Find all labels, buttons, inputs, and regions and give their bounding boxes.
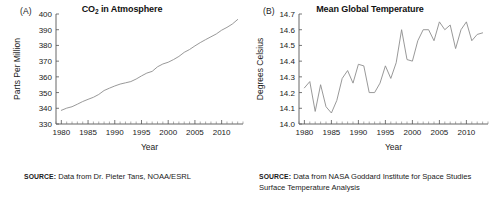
y-tick-label: 14.3 xyxy=(279,73,295,82)
x-axis-title: Year xyxy=(141,142,158,152)
x-tick-label: 1990 xyxy=(350,128,368,137)
x-tick-label: 1980 xyxy=(296,128,314,137)
y-tick-label: 14.0 xyxy=(279,120,295,129)
chart-co2: 3303403503603703803904001980198519901995… xyxy=(0,0,251,160)
x-tick-label: 2010 xyxy=(213,128,231,137)
x-tick-label: 1995 xyxy=(377,128,395,137)
x-tick-label: 2005 xyxy=(186,128,204,137)
panel-b-source-text: Data from NASA Goddard Institute for Spa… xyxy=(259,172,471,192)
panel-a-source: SOURCE: Data from Dr. Pieter Tans, NOAA/… xyxy=(24,172,250,183)
x-tick-label: 1995 xyxy=(133,128,151,137)
x-tick-label: 2000 xyxy=(159,128,177,137)
y-tick-label: 360 xyxy=(39,73,53,82)
y-tick-label: 14.1 xyxy=(279,104,295,113)
x-tick-label: 2000 xyxy=(404,128,422,137)
x-tick-label: 2005 xyxy=(431,128,449,137)
panel-a-source-prefix: SOURCE: xyxy=(24,173,56,180)
y-tick-label: 14.6 xyxy=(279,26,295,35)
y-tick-label: 14.2 xyxy=(279,89,295,98)
y-tick-label: 14.5 xyxy=(279,41,295,50)
y-tick-label: 14.7 xyxy=(279,10,295,19)
panel-co2: (A) CO2 in Atmosphere 330340350360370380… xyxy=(0,0,251,206)
panel-b-source: SOURCE: Data from NASA Goddard Institute… xyxy=(259,172,499,193)
y-axis-title: Degrees Celsius xyxy=(255,38,265,100)
y-tick-label: 340 xyxy=(39,104,53,113)
y-tick-label: 390 xyxy=(39,26,53,35)
panel-b-source-prefix: SOURCE: xyxy=(259,173,291,180)
data-series-line xyxy=(61,20,237,111)
x-tick-label: 1980 xyxy=(52,128,70,137)
chart-temperature: 14.014.114.214.314.414.514.614.719801985… xyxy=(251,0,502,160)
y-tick-label: 400 xyxy=(39,10,53,19)
y-tick-label: 380 xyxy=(39,41,53,50)
x-tick-label: 1990 xyxy=(106,128,124,137)
y-tick-label: 350 xyxy=(39,89,53,98)
panel-a-source-text: Data from Dr. Pieter Tans, NOAA/ESRL xyxy=(56,172,191,181)
x-tick-label: 1985 xyxy=(323,128,341,137)
data-series-line xyxy=(304,22,482,113)
y-axis-title: Parts Per Million xyxy=(12,38,22,100)
panel-temperature: (B) Mean Global Temperature 14.014.114.2… xyxy=(251,0,502,206)
y-tick-label: 370 xyxy=(39,57,53,66)
x-tick-label: 2010 xyxy=(458,128,476,137)
figure-container: (A) CO2 in Atmosphere 330340350360370380… xyxy=(0,0,502,206)
x-axis-title: Year xyxy=(385,142,402,152)
x-tick-label: 1985 xyxy=(79,128,97,137)
y-tick-label: 14.4 xyxy=(279,57,295,66)
y-tick-label: 330 xyxy=(39,120,53,129)
